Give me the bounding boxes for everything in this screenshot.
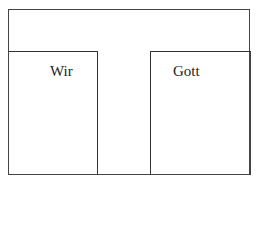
bottom-line: [8, 174, 251, 175]
label-wir: Wir: [50, 63, 73, 80]
label-gott: Gott: [173, 63, 200, 80]
right-box: [150, 51, 251, 175]
